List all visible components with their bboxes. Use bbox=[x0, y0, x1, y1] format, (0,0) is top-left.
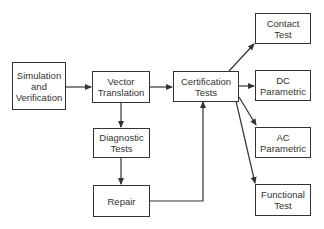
node-label: Vector Translation bbox=[98, 76, 145, 98]
node-label: Diagnostic Tests bbox=[99, 132, 143, 154]
node-dc-parametric: DC Parametric bbox=[255, 70, 311, 101]
node-diagnostic-tests: Diagnostic Tests bbox=[93, 128, 150, 158]
node-label: AC Parametric bbox=[260, 132, 306, 154]
node-simulation-verification: Simulation and Verification bbox=[12, 62, 66, 110]
edge-repair-to-cert bbox=[150, 102, 203, 201]
node-label: DC Parametric bbox=[260, 75, 306, 97]
node-label: Repair bbox=[108, 196, 136, 207]
edge-cert-to-functional bbox=[236, 101, 255, 183]
node-vector-translation: Vector Translation bbox=[92, 71, 150, 103]
node-repair: Repair bbox=[93, 185, 150, 217]
edge-cert-to-ac bbox=[239, 97, 256, 125]
node-label: Certification Tests bbox=[181, 76, 231, 98]
node-ac-parametric: AC Parametric bbox=[255, 127, 311, 158]
node-contact-test: Contact Test bbox=[255, 13, 311, 44]
node-label: Simulation and Verification bbox=[16, 70, 62, 103]
node-functional-test: Functional Test bbox=[255, 184, 311, 216]
node-certification-tests: Certification Tests bbox=[173, 71, 239, 102]
node-label: Functional Test bbox=[261, 189, 305, 211]
edge-cert-to-contact bbox=[229, 44, 254, 71]
node-label: Contact Test bbox=[267, 18, 300, 40]
